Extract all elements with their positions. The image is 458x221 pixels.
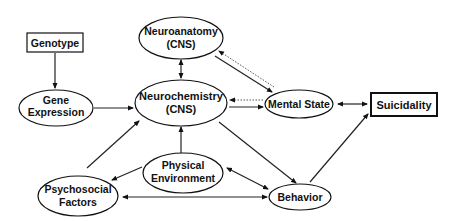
gene-expression-label-line2: Expression xyxy=(28,106,85,118)
node-gene-expression: Gene Expression xyxy=(19,90,93,126)
node-neuroanatomy: Neuroanatomy (CNS) xyxy=(139,17,223,59)
edge-physical-env-behavior xyxy=(227,168,268,189)
edge-neurochemistry-to-behavior xyxy=(219,122,296,183)
edge-physical-env-to-psychosocial xyxy=(112,167,142,180)
node-mental-state: Mental State xyxy=(265,90,333,118)
node-physical-environment: Physical Environment xyxy=(143,153,223,193)
neuroanatomy-label-line2: (CNS) xyxy=(166,38,195,50)
neurochemistry-label-line2: (CNS) xyxy=(166,103,197,115)
behavior-label: Behavior xyxy=(278,191,323,203)
psychosocial-factors-label-line2: Factors xyxy=(59,196,97,208)
node-genotype: Genotype xyxy=(27,33,83,52)
mental-state-label: Mental State xyxy=(268,98,330,110)
edge-mental-state-to-neuroanatomy xyxy=(219,51,274,87)
diagram-canvas: Genotype Gene Expression Neuroanatomy (C… xyxy=(0,0,458,221)
edge-neuroanatomy-to-mental-state xyxy=(215,56,272,92)
node-suicidality: Suicidality xyxy=(371,93,437,116)
neurochemistry-label-line1: Neurochemistry xyxy=(139,90,224,102)
suicidality-label: Suicidality xyxy=(376,99,432,111)
edge-behavior-to-suicidality xyxy=(310,114,368,182)
gene-expression-label-line1: Gene xyxy=(43,94,69,106)
node-psychosocial-factors: Psychosocial Factors xyxy=(38,176,118,216)
node-neurochemistry: Neurochemistry (CNS) xyxy=(135,80,227,126)
neuroanatomy-label-line1: Neuroanatomy xyxy=(144,25,218,37)
genotype-label: Genotype xyxy=(31,37,80,49)
physical-environment-label-line2: Environment xyxy=(151,172,216,184)
node-behavior: Behavior xyxy=(269,184,331,210)
edge-psychosocial-to-neurochemistry xyxy=(87,121,139,168)
physical-environment-label-line1: Physical xyxy=(162,159,205,171)
psychosocial-factors-label-line1: Psychosocial xyxy=(44,183,111,195)
